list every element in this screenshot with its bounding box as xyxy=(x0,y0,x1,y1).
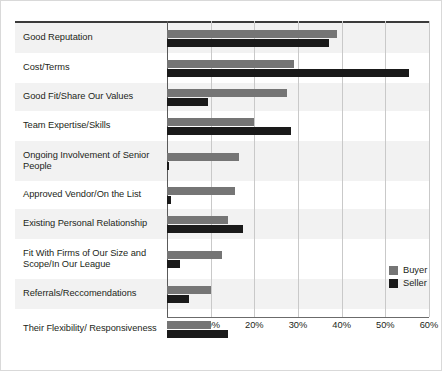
bar-seller xyxy=(167,69,409,77)
row-plot xyxy=(167,83,429,111)
bar-buyer xyxy=(167,60,294,68)
gridline xyxy=(429,21,430,317)
bar-seller xyxy=(167,98,208,106)
chart-row: Their Flexibility/ Responsiveness xyxy=(15,309,429,349)
category-label: Approved Vendor/On the List xyxy=(15,181,167,209)
chart-row: Team Expertise/Skills xyxy=(15,111,429,141)
bar-buyer xyxy=(167,187,235,195)
bar-seller xyxy=(167,330,228,338)
legend-swatch-seller xyxy=(389,279,398,288)
bar-buyer xyxy=(167,321,211,329)
bar-buyer xyxy=(167,286,211,294)
chart-row: Fit With Firms of Our Size and Scope/In … xyxy=(15,239,429,279)
legend-label-seller: Seller xyxy=(403,278,427,288)
legend-item-seller: Seller xyxy=(389,278,427,288)
bar-gap xyxy=(167,161,429,162)
row-plot xyxy=(167,309,429,349)
bar-seller xyxy=(167,196,171,204)
bar-buyer xyxy=(167,251,222,259)
bar-buyer xyxy=(167,216,228,224)
row-plot xyxy=(167,181,429,209)
bar-chart: Good Reputation Cost/Terms xyxy=(15,21,429,341)
category-label: Good Fit/Share Our Values xyxy=(15,83,167,111)
chart-row: Approved Vendor/On the List xyxy=(15,181,429,209)
legend-swatch-buyer xyxy=(389,266,398,275)
row-plot xyxy=(167,23,429,53)
chart-rows: Good Reputation Cost/Terms xyxy=(15,21,429,319)
bar-gap xyxy=(167,294,429,295)
bar-gap xyxy=(167,259,429,260)
legend-label-buyer: Buyer xyxy=(403,265,427,275)
chart-row: Good Reputation xyxy=(15,23,429,53)
bar-buyer xyxy=(167,30,337,38)
bar-seller xyxy=(167,295,189,303)
category-label: Ongoing Involvement of Senior People xyxy=(15,141,167,181)
chart-row: Ongoing Involvement of Senior People xyxy=(15,141,429,181)
chart-container: Good Reputation Cost/Terms xyxy=(0,0,442,371)
chart-row: Cost/Terms xyxy=(15,53,429,83)
row-plot xyxy=(167,111,429,141)
bar-seller xyxy=(167,127,291,135)
category-label: Team Expertise/Skills xyxy=(15,111,167,141)
chart-row: Referrals/Reccomendations xyxy=(15,279,429,309)
bar-seller xyxy=(167,39,329,47)
category-label: Their Flexibility/ Responsiveness xyxy=(15,309,167,349)
row-plot xyxy=(167,53,429,83)
bar-buyer xyxy=(167,89,287,97)
chart-row: Good Fit/Share Our Values xyxy=(15,83,429,111)
category-label: Good Reputation xyxy=(15,23,167,53)
category-label: Referrals/Reccomendations xyxy=(15,279,167,309)
category-label: Existing Personal Relationship xyxy=(15,209,167,239)
bar-gap xyxy=(167,195,429,196)
chart-row: Existing Personal Relationship xyxy=(15,209,429,239)
bar-seller xyxy=(167,162,169,170)
bar-buyer xyxy=(167,153,239,161)
category-label: Fit With Firms of Our Size and Scope/In … xyxy=(15,239,167,279)
row-plot xyxy=(167,209,429,239)
bar-buyer xyxy=(167,118,254,126)
legend-item-buyer: Buyer xyxy=(389,265,427,275)
category-label: Cost/Terms xyxy=(15,53,167,83)
bar-seller xyxy=(167,225,243,233)
bar-seller xyxy=(167,260,180,268)
row-plot xyxy=(167,141,429,181)
chart-legend: Buyer Seller xyxy=(389,265,427,291)
